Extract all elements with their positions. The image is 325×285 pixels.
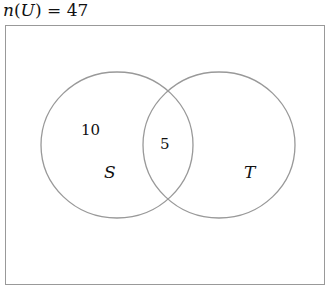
s-only-value: 10 <box>81 121 100 139</box>
set-t-label: T <box>244 162 257 182</box>
set-s-label: S <box>104 162 116 182</box>
intersection-value: 5 <box>160 135 170 153</box>
set-s-circle <box>41 72 193 218</box>
